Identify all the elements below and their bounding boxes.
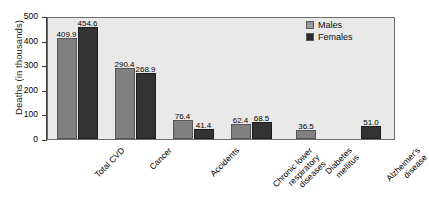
- bar-value-label: 68.5: [247, 114, 277, 123]
- y-tick-label: 300: [8, 61, 38, 70]
- bar-value-label: 51.0: [356, 118, 386, 127]
- bar-females: [194, 129, 214, 139]
- bar-males: [57, 38, 77, 139]
- y-tick-label: 200: [8, 86, 38, 95]
- bar-value-label: 454.6: [73, 19, 103, 28]
- x-axis-label: Cancer: [148, 146, 174, 172]
- x-axis-label: Alzheimer'sdisease: [385, 146, 429, 190]
- y-tick-mark: [42, 17, 46, 18]
- x-axis-label: Chronic lowerrespiratorydiseases: [271, 146, 328, 203]
- y-tick-label: 500: [8, 12, 38, 21]
- bar-value-label: 36.5: [291, 122, 321, 131]
- legend-item-females[interactable]: Females: [306, 32, 353, 42]
- y-tick-label: 100: [8, 110, 38, 119]
- bar-males: [115, 68, 135, 139]
- legend-swatch-icon: [306, 33, 314, 41]
- y-tick-label: 400: [8, 37, 38, 46]
- y-tick-mark: [42, 91, 46, 92]
- legend-item-males[interactable]: Males: [306, 20, 353, 30]
- x-axis-label: Total CVD: [93, 146, 127, 180]
- bar-females: [78, 27, 98, 139]
- y-tick-mark: [42, 140, 46, 141]
- legend-label: Females: [318, 32, 353, 42]
- y-tick-mark: [42, 42, 46, 43]
- y-tick-label: 0: [8, 135, 38, 144]
- x-axis-label: Diabetesmellitus: [324, 146, 361, 183]
- bar-males: [296, 130, 316, 139]
- chart-legend: MalesFemales: [306, 20, 353, 42]
- y-tick-mark: [42, 66, 46, 67]
- legend-swatch-icon: [306, 21, 314, 29]
- x-axis-label: Accidents: [209, 146, 242, 179]
- bar-females: [361, 126, 381, 139]
- bar-males: [231, 124, 251, 139]
- bar-females: [136, 73, 156, 139]
- bar-females: [252, 122, 272, 139]
- bar-value-label: 268.9: [131, 65, 161, 74]
- bar-value-label: 41.4: [189, 121, 219, 130]
- legend-label: Males: [318, 20, 342, 30]
- y-tick-mark: [42, 115, 46, 116]
